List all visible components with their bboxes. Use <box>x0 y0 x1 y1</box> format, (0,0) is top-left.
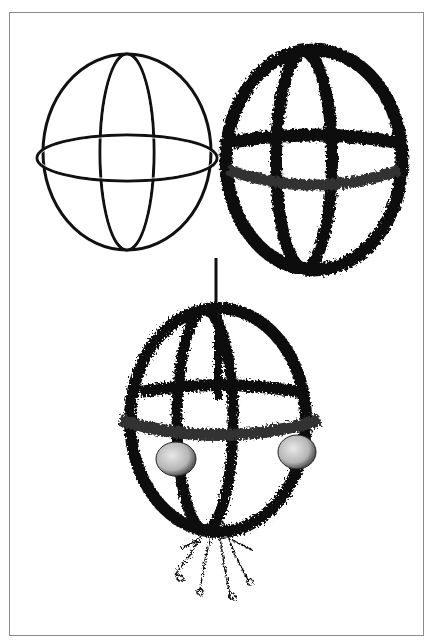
apple-left <box>156 442 196 476</box>
apple-right <box>278 435 316 469</box>
moss-covered-frame <box>226 50 402 270</box>
illustration <box>0 0 434 644</box>
finished-kissing-ball <box>120 258 320 599</box>
bare-wire-frame <box>37 54 217 250</box>
